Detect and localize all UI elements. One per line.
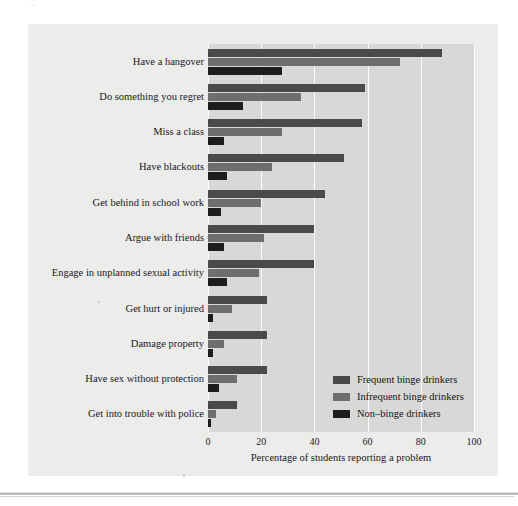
page-bottom-rule (0, 492, 518, 495)
bar-group (208, 260, 474, 286)
category-label: Get hurt or injured (126, 303, 204, 315)
bar[interactable] (208, 375, 237, 383)
bar[interactable] (208, 172, 227, 180)
bar[interactable] (208, 419, 211, 427)
bar[interactable] (208, 199, 261, 207)
bar-group (208, 49, 474, 75)
x-axis-tick-labels: 020406080100 (208, 436, 474, 450)
bar[interactable] (208, 137, 224, 145)
x-tick-label: 0 (206, 436, 211, 447)
legend-item-label: Frequent binge drinkers (357, 374, 457, 385)
category-label: Get into trouble with police (88, 408, 204, 420)
x-tick-label: 80 (416, 436, 426, 447)
bar[interactable] (208, 154, 344, 162)
bar[interactable] (208, 269, 259, 277)
bar[interactable] (208, 102, 243, 110)
bar[interactable] (208, 84, 365, 92)
page-top-cut-text: ... (30, 0, 290, 8)
category-label: Argue with friends (125, 232, 204, 244)
bar[interactable] (208, 366, 267, 374)
bar[interactable] (208, 208, 221, 216)
bar[interactable] (208, 401, 237, 409)
scan-speckle (98, 301, 100, 303)
category-label: Damage property (131, 338, 204, 350)
scan-speckle (183, 474, 185, 477)
category-label: Miss a class (153, 126, 204, 138)
bar[interactable] (208, 225, 314, 233)
bar[interactable] (208, 410, 216, 418)
bar[interactable] (208, 384, 219, 392)
x-tick-label: 20 (256, 436, 266, 447)
bar[interactable] (208, 305, 232, 313)
legend-item[interactable]: Frequent binge drinkers (333, 372, 498, 387)
bar[interactable] (208, 234, 264, 242)
bar-group (208, 225, 474, 251)
legend-item-label: Non–binge drinkers (357, 408, 441, 419)
bar[interactable] (208, 190, 325, 198)
legend-item[interactable]: Non–binge drinkers (333, 406, 498, 421)
bar[interactable] (208, 296, 267, 304)
category-label: Have sex without protection (85, 373, 204, 385)
bar[interactable] (208, 128, 282, 136)
bar[interactable] (208, 243, 224, 251)
legend-swatch-icon (333, 376, 350, 384)
x-tick-label: 40 (309, 436, 319, 447)
bar[interactable] (208, 340, 224, 348)
legend-item-label: Infrequent binge drinkers (357, 391, 464, 402)
category-label: Have a hangover (133, 56, 204, 68)
bar-group (208, 190, 474, 216)
bar[interactable] (208, 349, 213, 357)
bar[interactable] (208, 314, 213, 322)
legend: Frequent binge drinkers Infrequent binge… (333, 372, 498, 423)
legend-swatch-icon (333, 410, 350, 418)
figure-panel: Have a hangoverDo something you regretMi… (28, 24, 498, 476)
bar[interactable] (208, 58, 400, 66)
bar[interactable] (208, 163, 272, 171)
bar[interactable] (208, 49, 442, 57)
bar[interactable] (208, 67, 282, 75)
bar-group (208, 119, 474, 145)
bar[interactable] (208, 260, 314, 268)
bar[interactable] (208, 331, 267, 339)
x-tick-label: 60 (363, 436, 373, 447)
x-tick-label: 100 (467, 436, 482, 447)
category-label: Have blackouts (139, 161, 204, 173)
scanned-chart-page: ... Have a hangoverDo something you regr… (0, 0, 518, 506)
bar-group (208, 154, 474, 180)
page-bottom-rule-shadow (0, 496, 514, 497)
bar-group (208, 84, 474, 110)
category-label: Get behind in school work (93, 197, 204, 209)
bar[interactable] (208, 119, 362, 127)
bar[interactable] (208, 93, 301, 101)
category-label: Do something you regret (99, 91, 204, 103)
category-label: Engage in unplanned sexual activity (52, 267, 204, 279)
x-axis-title: Percentage of students reporting a probl… (208, 452, 474, 463)
bar[interactable] (208, 278, 227, 286)
bar-group (208, 296, 474, 322)
bar-group (208, 331, 474, 357)
legend-swatch-icon (333, 393, 350, 401)
legend-item[interactable]: Infrequent binge drinkers (333, 389, 498, 404)
